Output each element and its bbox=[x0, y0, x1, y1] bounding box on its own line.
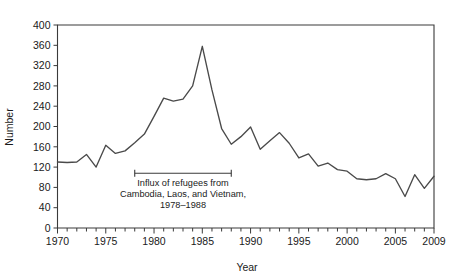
x-tick-label: 1985 bbox=[191, 235, 215, 247]
x-tick-label: 1995 bbox=[287, 235, 311, 247]
x-tick-label: 1980 bbox=[142, 235, 166, 247]
annotation-line-2: Cambodia, Laos, and Vietnam, bbox=[120, 189, 246, 199]
line-chart: 04080120160200240280320360400 1970197519… bbox=[0, 0, 453, 277]
y-axis-title: Number bbox=[3, 108, 15, 146]
x-tick-label: 1970 bbox=[46, 235, 70, 247]
x-axis-tick-labels: 197019751980198519901995200020052009 bbox=[46, 235, 446, 247]
annotation-line-3: 1978–1988 bbox=[160, 200, 206, 210]
y-tick-label: 240 bbox=[33, 100, 51, 112]
y-tick-label: 320 bbox=[33, 59, 51, 71]
x-tick-label: 1975 bbox=[94, 235, 118, 247]
y-tick-label: 200 bbox=[33, 120, 51, 132]
y-tick-label: 40 bbox=[39, 201, 51, 213]
y-tick-label: 0 bbox=[45, 222, 51, 234]
annotation-line-1: Influx of refugees from bbox=[137, 178, 229, 188]
y-tick-label: 400 bbox=[33, 19, 51, 31]
x-tick-label: 1990 bbox=[239, 235, 263, 247]
x-axis-title: Year bbox=[236, 261, 258, 273]
y-tick-label: 280 bbox=[33, 80, 51, 92]
x-tick-label: 2000 bbox=[335, 235, 359, 247]
y-tick-label: 360 bbox=[33, 39, 51, 51]
y-tick-label: 80 bbox=[39, 181, 51, 193]
y-tick-label: 120 bbox=[33, 161, 51, 173]
y-tick-label: 160 bbox=[33, 141, 51, 153]
x-tick-label: 2005 bbox=[384, 235, 408, 247]
chart-container: 04080120160200240280320360400 1970197519… bbox=[0, 0, 453, 277]
x-tick-label: 2009 bbox=[422, 235, 446, 247]
